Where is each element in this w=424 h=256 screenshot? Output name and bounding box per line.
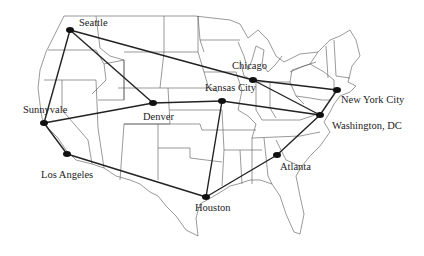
link-chicago-new-york-city [253,80,337,90]
label-kansas-city: Kansas City [205,82,257,93]
link-denver-kansas-city [153,101,222,103]
label-los-angeles: Los Angeles [41,169,93,180]
label-denver: Denver [143,111,174,122]
label-sunnyvale: Sunnyvale [23,104,68,115]
city-labels: SeattleSunnyvaleLos AngelesDenverKansas … [23,17,405,213]
link-sunnyvale-los-angeles [44,123,67,154]
node-seattle [66,27,74,33]
label-seattle: Seattle [79,17,108,28]
link-washington-dc-atlanta [277,115,320,155]
link-kansas-city-houston [206,101,222,197]
label-atlanta: Atlanta [280,161,311,172]
node-los-angeles [63,151,71,157]
label-washington-dc: Washington, DC [332,120,402,131]
node-sunnyvale [40,120,48,126]
network-map: SeattleSunnyvaleLos AngelesDenverKansas … [0,0,424,256]
node-denver [149,100,157,106]
label-chicago: Chicago [232,60,267,71]
node-new-york-city [333,87,341,93]
link-new-york-city-washington-dc [320,90,337,115]
node-houston [202,194,210,200]
label-houston: Houston [195,202,231,213]
label-new-york-city: New York City [341,94,405,105]
node-washington-dc [316,112,324,118]
node-kansas-city [218,98,226,104]
node-atlanta [273,152,281,158]
